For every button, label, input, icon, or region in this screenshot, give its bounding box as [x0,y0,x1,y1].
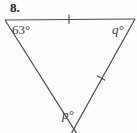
triangle-side-top [5,19,135,20]
geometry-figure: 8. 63° q° p° [0,0,137,133]
triangle-side-right [71,19,135,133]
angle-label-63: 63° [12,23,30,36]
angle-label-p: p° [62,108,74,121]
angle-label-q: q° [112,23,124,36]
problem-number-label: 8. [10,1,20,14]
